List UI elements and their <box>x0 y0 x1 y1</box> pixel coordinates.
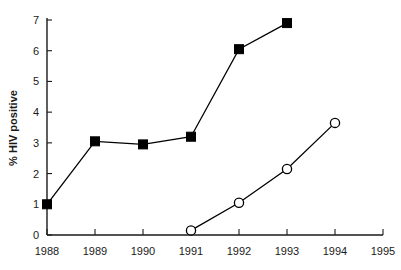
x-tick-label: 1993 <box>275 245 299 257</box>
data-point-open-circle-series <box>186 226 195 235</box>
chart-container: 01234567 1988198919901991199219931994199… <box>0 0 401 270</box>
x-tick-label: 1991 <box>179 245 203 257</box>
line-chart: 01234567 1988198919901991199219931994199… <box>0 0 401 270</box>
data-point-filled-square-series <box>91 137 100 146</box>
data-point-filled-square-series <box>283 19 292 28</box>
data-point-filled-square-series <box>139 140 148 149</box>
x-tick-label: 1994 <box>323 245 347 257</box>
data-point-filled-square-series <box>187 132 196 141</box>
data-point-open-circle-series <box>234 198 243 207</box>
y-tick-label: 6 <box>33 45 39 57</box>
x-tick-label: 1992 <box>227 245 251 257</box>
y-tick-label: 0 <box>33 229 39 241</box>
chart-background <box>0 0 401 270</box>
data-point-filled-square-series <box>235 45 244 54</box>
x-tick-label: 1989 <box>83 245 107 257</box>
x-tick-label: 1988 <box>35 245 59 257</box>
x-tick-label: 1990 <box>131 245 155 257</box>
data-point-open-circle-series <box>282 164 291 173</box>
y-tick-label: 5 <box>33 75 39 87</box>
y-tick-label: 2 <box>33 168 39 180</box>
y-tick-label: 1 <box>33 198 39 210</box>
data-point-open-circle-series <box>330 118 339 127</box>
y-tick-label: 3 <box>33 137 39 149</box>
y-tick-label: 7 <box>33 14 39 26</box>
y-tick-label: 4 <box>33 106 39 118</box>
y-axis-title: % HIV positive <box>7 90 19 166</box>
x-tick-label: 1995 <box>371 245 395 257</box>
data-point-filled-square-series <box>43 200 52 209</box>
